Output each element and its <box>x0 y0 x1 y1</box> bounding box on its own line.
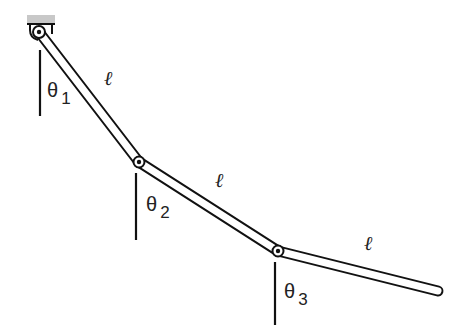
theta-index: 1 <box>61 89 70 108</box>
theta-symbol: θ <box>47 79 58 101</box>
angle-label-theta1: θ1 <box>47 80 71 100</box>
angle-label-theta3: θ3 <box>284 281 308 301</box>
pendulum-diagram <box>0 0 470 327</box>
pivot-joint-1 <box>33 26 45 38</box>
theta-symbol: θ <box>146 193 157 215</box>
pivot-joint-2 <box>134 157 145 168</box>
theta-index: 3 <box>298 290 307 309</box>
length-label-1: ℓ <box>104 68 112 88</box>
theta-index: 2 <box>160 203 169 222</box>
length-label-2: ℓ <box>215 170 223 190</box>
theta-symbol: θ <box>284 280 295 302</box>
length-label-3: ℓ <box>364 233 372 253</box>
pivot-joint-3 <box>273 246 284 257</box>
angle-label-theta2: θ2 <box>146 194 170 214</box>
ceiling-mount <box>27 15 55 24</box>
